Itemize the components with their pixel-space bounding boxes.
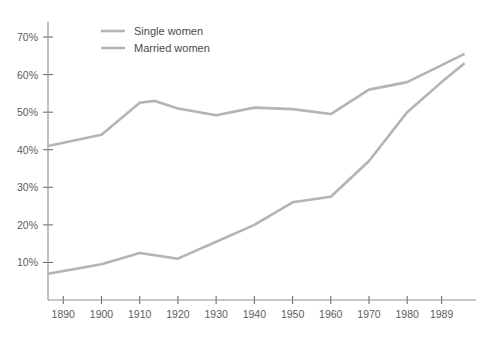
chart-canvas: 10%20%30%40%50%60%70% 189019001910192019… bbox=[0, 0, 484, 345]
series-line-married-women bbox=[48, 63, 465, 273]
x-tick-label: 1980 bbox=[396, 308, 420, 320]
x-tick-label: 1910 bbox=[128, 308, 152, 320]
data-series-group bbox=[48, 54, 465, 274]
legend-label: Married women bbox=[134, 42, 210, 54]
series-line-single-women bbox=[48, 54, 465, 146]
y-axis-labels: 10%20%30%40%50%60%70% bbox=[17, 31, 38, 268]
x-tick-label: 1960 bbox=[319, 308, 343, 320]
y-tick-label: 70% bbox=[17, 31, 38, 43]
legend-label: Single women bbox=[134, 25, 203, 37]
y-tick-label: 50% bbox=[17, 106, 38, 118]
line-chart: 10%20%30%40%50%60%70% 189019001910192019… bbox=[0, 0, 484, 345]
chart-legend: Single womenMarried women bbox=[101, 25, 210, 54]
x-tick-label: 1890 bbox=[52, 308, 76, 320]
x-tick-label: 1930 bbox=[204, 308, 228, 320]
y-tick-label: 30% bbox=[17, 181, 38, 193]
x-tick-label: 1970 bbox=[357, 308, 381, 320]
y-tick-label: 20% bbox=[17, 219, 38, 231]
x-tick-label: 1920 bbox=[166, 308, 190, 320]
y-tick-label: 40% bbox=[17, 144, 38, 156]
x-tick-label: 1950 bbox=[281, 308, 305, 320]
y-tick-label: 60% bbox=[17, 69, 38, 81]
x-tick-label: 1989 bbox=[430, 308, 454, 320]
x-tick-label: 1900 bbox=[90, 308, 114, 320]
x-tick-label: 1940 bbox=[243, 308, 267, 320]
y-tick-label: 10% bbox=[17, 256, 38, 268]
x-axis-labels: 1890190019101920193019401950196019701980… bbox=[52, 308, 454, 320]
